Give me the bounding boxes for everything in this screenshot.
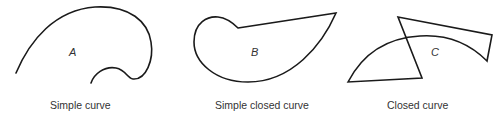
figure-a: A	[16, 7, 152, 83]
label-b: B	[251, 46, 258, 58]
simple-curve-path	[16, 7, 152, 83]
simple-closed-curve-path	[194, 13, 336, 82]
caption-simple-closed-curve: Simple closed curve	[215, 99, 309, 111]
caption-closed-curve: Closed curve	[387, 99, 448, 111]
figure-c: C	[348, 17, 492, 82]
label-a: A	[68, 46, 76, 58]
figure-b: B	[194, 13, 336, 82]
caption-simple-curve: Simple curve	[50, 99, 111, 111]
label-c: C	[431, 46, 439, 58]
closed-curve-path	[348, 17, 492, 82]
